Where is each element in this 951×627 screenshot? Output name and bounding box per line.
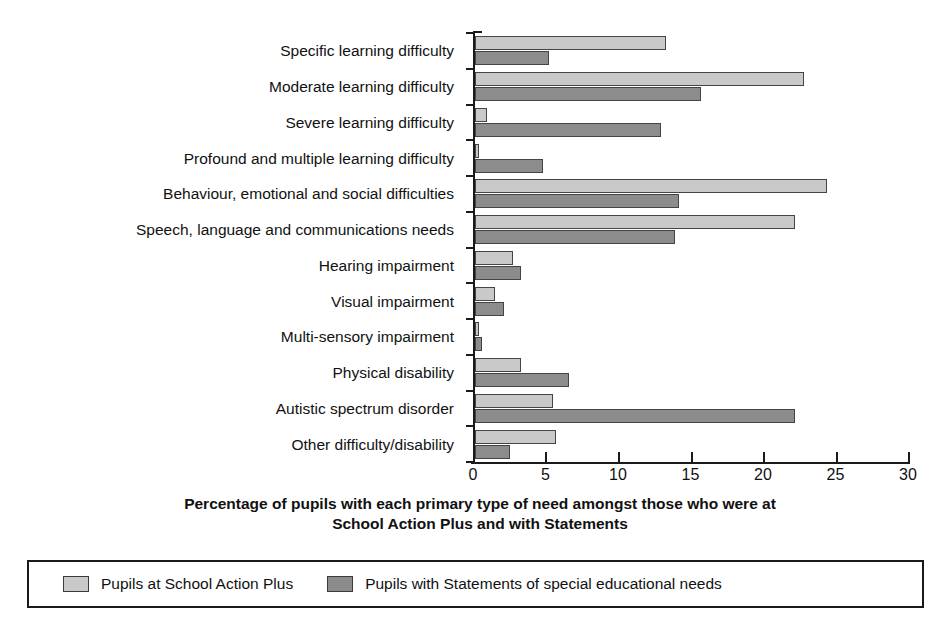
- x-axis-tick-labels: 051015202530: [473, 466, 908, 488]
- bar-group: [475, 355, 910, 391]
- bar-group: [475, 212, 910, 248]
- category-tick: [466, 175, 475, 177]
- x-tick: [545, 452, 547, 463]
- category-label: Specific learning difficulty: [0, 33, 463, 69]
- bar-group: [475, 248, 910, 284]
- x-tick-label: 30: [899, 466, 917, 484]
- bar-school-action-plus: [475, 179, 827, 193]
- bar-school-action-plus: [475, 358, 521, 372]
- category-label: Visual impairment: [0, 283, 463, 319]
- category-label: Other difficulty/disability: [0, 426, 463, 462]
- x-tick: [618, 452, 620, 463]
- category-tick: [466, 390, 475, 392]
- category-tick: [466, 32, 475, 34]
- plot-area: [473, 33, 910, 462]
- x-axis-ticks: [473, 452, 908, 464]
- bar-group: [475, 176, 910, 212]
- chart-title: Percentage of pupils with each primary t…: [90, 494, 870, 535]
- bar-statements: [475, 87, 701, 101]
- category-tick: [466, 104, 475, 106]
- x-tick: [763, 452, 765, 463]
- x-tick-label: 20: [754, 466, 772, 484]
- bar-statements: [475, 123, 661, 137]
- bar-group: [475, 105, 910, 141]
- category-label: Behaviour, emotional and social difficul…: [0, 176, 463, 212]
- bar-statements: [475, 51, 549, 65]
- bar-group: [475, 33, 910, 69]
- category-label: Moderate learning difficulty: [0, 69, 463, 105]
- legend-label: Pupils with Statements of special educat…: [365, 575, 722, 593]
- bar-group: [475, 140, 910, 176]
- bar-statements: [475, 373, 569, 387]
- plot-wrapper: Specific learning difficultyModerate lea…: [0, 0, 951, 470]
- bar-statements: [475, 266, 521, 280]
- x-tick: [836, 452, 838, 463]
- legend-swatch-icon: [327, 576, 353, 592]
- x-tick-label: 0: [469, 466, 478, 484]
- legend-swatch-icon: [63, 576, 89, 592]
- bar-rows: [475, 33, 910, 462]
- category-tick: [466, 68, 475, 70]
- category-tick: [466, 211, 475, 213]
- category-tick: [466, 318, 475, 320]
- category-tick: [466, 282, 475, 284]
- bar-school-action-plus: [475, 108, 487, 122]
- legend-label: Pupils at School Action Plus: [101, 575, 293, 593]
- category-label: Severe learning difficulty: [0, 105, 463, 141]
- bar-group: [475, 319, 910, 355]
- category-tick: [466, 354, 475, 356]
- x-tick-label: 10: [609, 466, 627, 484]
- bar-group: [475, 283, 910, 319]
- bar-school-action-plus: [475, 215, 795, 229]
- chart-legend: Pupils at School Action PlusPupils with …: [27, 560, 924, 608]
- chart-title-line: School Action Plus and with Statements: [90, 514, 870, 534]
- bar-statements: [475, 337, 482, 351]
- x-tick: [691, 452, 693, 463]
- bar-statements: [475, 302, 504, 316]
- category-axis-labels: Specific learning difficultyModerate lea…: [0, 33, 463, 462]
- bar-school-action-plus: [475, 72, 804, 86]
- category-label: Speech, language and communications need…: [0, 212, 463, 248]
- category-label: Hearing impairment: [0, 248, 463, 284]
- bar-statements: [475, 194, 679, 208]
- x-tick-label: 5: [541, 466, 550, 484]
- category-label: Physical disability: [0, 355, 463, 391]
- legend-item[interactable]: Pupils with Statements of special educat…: [327, 575, 722, 593]
- category-tick: [466, 425, 475, 427]
- bar-school-action-plus: [475, 287, 495, 301]
- bar-statements: [475, 230, 675, 244]
- x-tick: [473, 452, 475, 463]
- bar-school-action-plus: [475, 144, 479, 158]
- bar-school-action-plus: [475, 36, 666, 50]
- category-label: Autistic spectrum disorder: [0, 391, 463, 427]
- x-tick: [908, 452, 910, 463]
- bar-statements: [475, 409, 795, 423]
- bar-chart: Specific learning difficultyModerate lea…: [0, 0, 951, 627]
- category-label: Profound and multiple learning difficult…: [0, 140, 463, 176]
- x-tick-label: 15: [682, 466, 700, 484]
- legend-item[interactable]: Pupils at School Action Plus: [63, 575, 293, 593]
- bar-school-action-plus: [475, 394, 553, 408]
- legend-items: Pupils at School Action PlusPupils with …: [29, 575, 722, 593]
- bar-school-action-plus: [475, 430, 556, 444]
- bar-statements: [475, 159, 543, 173]
- category-tick: [466, 247, 475, 249]
- bar-group: [475, 391, 910, 427]
- chart-title-line: Percentage of pupils with each primary t…: [90, 494, 870, 514]
- category-tick: [466, 139, 475, 141]
- bar-school-action-plus: [475, 322, 479, 336]
- bar-school-action-plus: [475, 251, 513, 265]
- category-label: Multi-sensory impairment: [0, 319, 463, 355]
- bar-group: [475, 69, 910, 105]
- x-tick-label: 25: [827, 466, 845, 484]
